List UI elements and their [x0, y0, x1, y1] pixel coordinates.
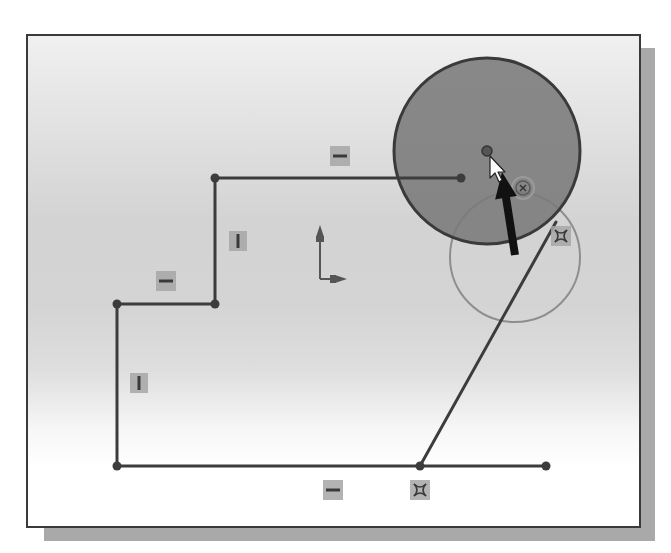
sketch-endpoint[interactable] — [113, 462, 122, 471]
horizontal-relation-icon[interactable] — [156, 271, 176, 291]
sketch-endpoint[interactable] — [457, 174, 466, 183]
vertical-relation-icon[interactable] — [130, 373, 148, 393]
horizontal-relation-icon[interactable] — [323, 480, 343, 500]
sketch-endpoint[interactable] — [211, 174, 220, 183]
circle-center-point[interactable] — [482, 146, 492, 156]
slanted-line[interactable] — [420, 222, 556, 466]
horizontal-relation-icon[interactable] — [330, 146, 350, 166]
sketch-viewport[interactable] — [26, 34, 641, 528]
sketch-endpoint[interactable] — [542, 462, 551, 471]
coincident-relation-icon[interactable] — [551, 226, 571, 246]
sketch-canvas[interactable] — [26, 34, 641, 528]
sketch-endpoint[interactable] — [113, 300, 122, 309]
sketch-endpoint[interactable] — [211, 300, 220, 309]
sketch-endpoint[interactable] — [416, 462, 425, 471]
origin-axis-icon — [316, 225, 347, 283]
vertical-relation-icon[interactable] — [229, 231, 247, 251]
coincident-relation-icon[interactable] — [410, 480, 430, 500]
